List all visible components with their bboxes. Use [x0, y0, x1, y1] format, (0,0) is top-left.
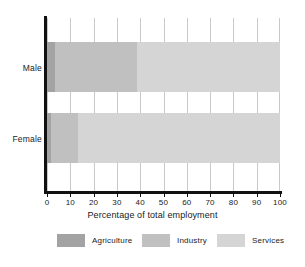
tick-mark-30	[117, 192, 118, 197]
tick-label-0: 0	[35, 198, 59, 207]
tick-mark-20	[94, 192, 95, 197]
legend-label-industry: Industry	[177, 236, 207, 245]
tick-label-50: 50	[152, 198, 176, 207]
tick-mark-70	[210, 192, 211, 197]
legend-swatch-industry	[142, 234, 170, 247]
legend-item-agriculture: Agriculture	[57, 233, 132, 247]
tick-mark-10	[70, 192, 71, 197]
tick-mark-60	[187, 192, 188, 197]
tick-mark-80	[233, 192, 234, 197]
legend-swatch-agriculture	[57, 234, 85, 247]
tick-label-100: 100	[268, 198, 292, 207]
tick-label-30: 30	[105, 198, 129, 207]
tick-label-20: 20	[82, 198, 106, 207]
tick-label-80: 80	[221, 198, 245, 207]
bar-male-segment-industry	[55, 42, 137, 92]
bar-female	[47, 113, 280, 163]
y-axis-line	[44, 16, 47, 194]
tick-mark-90	[257, 192, 258, 197]
legend-item-services: Services	[217, 233, 284, 247]
plot-area	[47, 18, 280, 192]
bar-female-segment-services	[78, 113, 280, 163]
bar-female-segment-industry	[51, 113, 79, 163]
category-label-male: Male	[23, 63, 42, 73]
legend-label-agriculture: Agriculture	[92, 236, 132, 245]
bar-male-segment-agriculture	[47, 42, 55, 92]
tick-label-40: 40	[128, 198, 152, 207]
category-label-female: Female	[12, 134, 42, 144]
tick-mark-100	[280, 192, 281, 197]
tick-label-70: 70	[198, 198, 222, 207]
legend-swatch-services	[217, 234, 245, 247]
tick-label-10: 10	[58, 198, 82, 207]
tick-mark-40	[140, 192, 141, 197]
tick-label-60: 60	[175, 198, 199, 207]
bar-male	[47, 42, 280, 92]
bar-male-segment-services	[137, 42, 280, 92]
tick-label-90: 90	[245, 198, 269, 207]
stacked-bar-chart: 0 10 20 30 40 50 60 70 80 90 100 Male Fe…	[0, 0, 305, 267]
tick-mark-0	[47, 192, 48, 197]
x-axis-title: Percentage of total employment	[0, 210, 305, 220]
legend-label-services: Services	[252, 236, 284, 245]
legend-item-industry: Industry	[142, 233, 207, 247]
chart-legend: Agriculture Industry Services	[0, 233, 305, 253]
tick-mark-50	[164, 192, 165, 197]
